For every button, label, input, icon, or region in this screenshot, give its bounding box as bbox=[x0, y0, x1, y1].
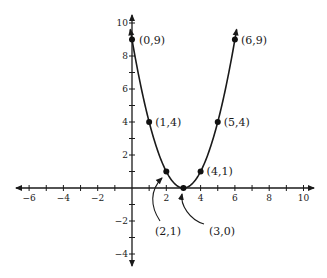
point-label: (3,0) bbox=[209, 225, 235, 238]
y-tick-label: 10 bbox=[117, 18, 129, 28]
x-tick-label: −2 bbox=[91, 193, 104, 203]
x-tick-label: 2 bbox=[163, 193, 169, 203]
point-label: (1,4) bbox=[155, 116, 181, 129]
y-tick-label: −2 bbox=[115, 216, 128, 226]
point-label: (4,1) bbox=[207, 165, 233, 178]
y-tick-label: 6 bbox=[122, 84, 128, 94]
ticks: −6−4−2246810108642−2−4 bbox=[22, 18, 309, 259]
y-tick-label: −4 bbox=[115, 249, 129, 259]
point-label: (0,9) bbox=[139, 34, 165, 47]
data-point bbox=[180, 185, 186, 191]
x-tick-label: 10 bbox=[298, 193, 310, 203]
y-tick-label: 4 bbox=[122, 117, 128, 127]
x-tick-label: 4 bbox=[198, 193, 204, 203]
y-tick-label: 8 bbox=[122, 51, 128, 61]
x-tick-label: −4 bbox=[57, 193, 71, 203]
y-tick-label: 2 bbox=[122, 150, 128, 160]
point-label: (2,1) bbox=[155, 225, 181, 238]
x-tick-label: −6 bbox=[22, 193, 36, 203]
annotations: (2,1)(3,0) bbox=[153, 178, 235, 238]
x-tick-label: 8 bbox=[266, 193, 272, 203]
data-point bbox=[232, 37, 238, 43]
data-point bbox=[129, 37, 135, 43]
data-point bbox=[146, 119, 152, 125]
point-label: (5,4) bbox=[224, 116, 250, 129]
parabola-chart: −6−4−2246810108642−2−4 (0,9)(1,4)(4,1)(5… bbox=[0, 0, 327, 278]
data-point bbox=[198, 169, 204, 175]
data-point bbox=[215, 119, 221, 125]
data-points: (0,9)(1,4)(4,1)(5,4)(6,9) bbox=[129, 34, 267, 192]
x-tick-label: 6 bbox=[232, 193, 238, 203]
data-point bbox=[163, 169, 169, 175]
point-label: (6,9) bbox=[241, 34, 267, 47]
